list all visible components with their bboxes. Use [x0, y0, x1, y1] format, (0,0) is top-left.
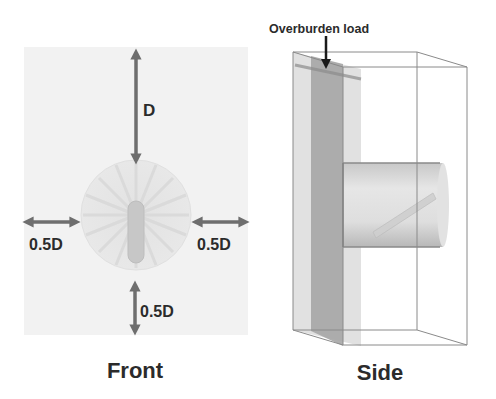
overburden-load-label: Overburden load: [269, 22, 369, 36]
tunnel-face: [81, 160, 191, 270]
dimension-label-top: D: [143, 101, 155, 120]
side-caption: Side: [357, 360, 403, 385]
front-caption: Front: [107, 358, 164, 383]
overburden-dark-slab: [311, 56, 343, 346]
fracture-slot: [128, 201, 144, 263]
side-view: Overburden load Side: [269, 22, 467, 385]
dimension-label-bottom: 0.5D: [140, 303, 174, 320]
dimension-label-left: 0.5D: [29, 236, 63, 253]
front-view: D 0.5D 0.5D 0.5D Front: [24, 47, 248, 383]
figure-canvas: D 0.5D 0.5D 0.5D Front: [0, 0, 496, 399]
dimension-label-right: 0.5D: [197, 236, 231, 253]
tunnel-cylinder: [343, 163, 449, 247]
